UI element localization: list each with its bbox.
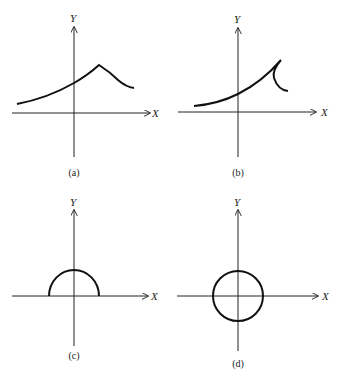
panel-d: X Y (d) bbox=[177, 196, 330, 370]
y-axis-label: Y bbox=[234, 13, 242, 25]
caption-d: (d) bbox=[232, 358, 244, 370]
panel-b: X Y (b) bbox=[178, 13, 329, 179]
y-axis-label: Y bbox=[70, 12, 78, 24]
y-axis-label: Y bbox=[70, 196, 78, 208]
panel-a: X Y (a) bbox=[12, 12, 160, 179]
curve bbox=[17, 65, 134, 104]
x-axis-label: X bbox=[151, 107, 160, 119]
x-axis-label: X bbox=[320, 106, 329, 118]
x-axis-label: X bbox=[150, 290, 159, 302]
y-axis-label: Y bbox=[234, 196, 242, 208]
caption-b: (b) bbox=[232, 167, 244, 179]
caption-a: (a) bbox=[68, 167, 79, 179]
panel-c: X Y (c) bbox=[12, 196, 159, 362]
figure: X Y (a) X Y (b) X Y (c) X Y (d) bbox=[0, 0, 342, 378]
curve bbox=[194, 60, 288, 106]
caption-c: (c) bbox=[68, 350, 79, 362]
x-axis-label: X bbox=[321, 290, 330, 302]
